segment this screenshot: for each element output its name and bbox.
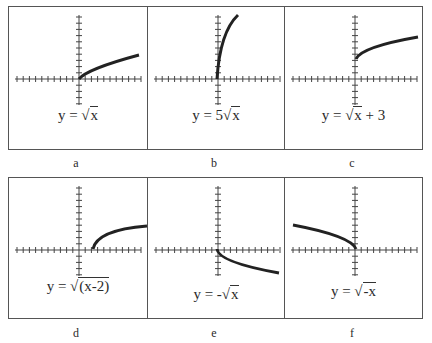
curve (293, 225, 356, 249)
bottom-row: y = √(x-2) y = -√x y = √-x (8, 177, 423, 319)
equation-c: y = √x + 3 (285, 107, 422, 124)
panel-d: y = √(x-2) (9, 178, 147, 318)
axes (291, 186, 417, 276)
label-e: e (204, 326, 224, 341)
equation-b: y = 5√x (148, 107, 284, 124)
axes (154, 186, 280, 276)
label-f: f (342, 326, 362, 341)
panel-e: y = -√x (147, 178, 284, 318)
curve (356, 37, 418, 59)
panel-b: y = 5√x (147, 7, 284, 149)
equation-f: y = √-x (285, 283, 422, 300)
graph-c (285, 7, 423, 151)
panel-c: y = √x + 3 (284, 7, 422, 149)
label-a: a (66, 156, 86, 171)
equation-e: y = -√x (148, 286, 284, 303)
graph-a (9, 7, 147, 151)
curve (217, 15, 238, 79)
equation-d: y = √(x-2) (9, 278, 147, 295)
curve (217, 249, 279, 273)
top-row: y = √x y = 5√x y = √x + 3 (8, 6, 423, 150)
panel-a: y = √x (9, 7, 147, 149)
graph-d (9, 178, 147, 320)
graph-b (148, 7, 285, 151)
curve (93, 226, 147, 249)
axes (154, 15, 280, 105)
label-d: d (66, 326, 86, 341)
label-c: c (342, 156, 362, 171)
label-b: b (204, 156, 224, 171)
equation-a: y = √x (9, 107, 147, 124)
panel-f: y = √-x (284, 178, 422, 318)
axes (291, 15, 417, 105)
curve (79, 55, 139, 79)
